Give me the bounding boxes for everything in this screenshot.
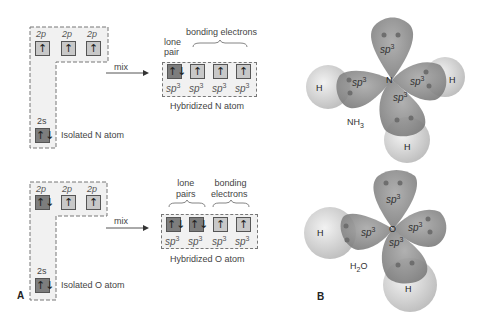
- ammonia-sp3-label-right: sp3: [410, 75, 424, 87]
- ammonia-sp3-label-left: sp3: [352, 76, 366, 88]
- panel-b-letter: B: [317, 291, 324, 302]
- ammonia-sp3-label-bottom: sp3: [393, 91, 407, 103]
- water-sp3-label-right: sp3: [408, 221, 422, 233]
- molecule-illustrations: [0, 0, 490, 323]
- water-formula: H2O: [350, 261, 367, 273]
- ammonia-hydrogen-right: H: [449, 75, 456, 85]
- water-hydrogen-bottom: H: [405, 284, 412, 294]
- water-central-atom-label: O: [389, 224, 396, 234]
- ammonia-formula: NH3: [347, 117, 364, 129]
- water-sp3-label-top: sp3: [386, 193, 400, 205]
- ammonia-hydrogen-left: H: [316, 83, 323, 93]
- ammonia-sp3-label-top: sp3: [380, 43, 394, 55]
- water-sp3-label-left: sp3: [361, 226, 375, 238]
- ammonia-molecule: [306, 18, 465, 164]
- water-hydrogen-left: H: [317, 228, 324, 238]
- water-sp3-label-bottom: sp3: [389, 236, 403, 248]
- ammonia-central-atom-label: N: [386, 75, 393, 85]
- ammonia-hydrogen-bottom: H: [404, 142, 411, 152]
- water-molecule: [304, 170, 446, 312]
